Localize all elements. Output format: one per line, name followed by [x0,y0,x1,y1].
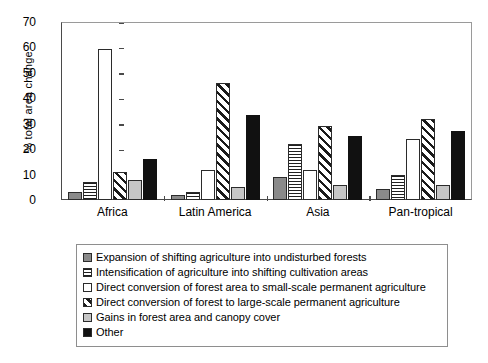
bar-asia-series-3 [303,170,317,201]
bar-africa-series-5 [128,180,142,200]
legend-swatch-icon-4 [83,298,92,307]
bar-group-pan-tropical [369,22,472,200]
x-label-pan-tropical: Pan-tropical [369,205,472,219]
x-label-latin-america: Latin America [164,205,267,219]
legend-swatch-icon-6 [83,328,92,337]
bar-pan-tropical-series-5 [436,185,450,200]
x-label-asia: Asia [267,205,370,219]
bar-africa-series-3 [98,49,112,200]
y-tick-label-70: 70 [0,15,36,29]
bar-asia-series-6 [348,136,362,200]
bar-latin-america-series-2 [186,192,200,200]
bar-asia-series-5 [333,185,347,200]
legend-label-2: Intensification of agriculture into shif… [96,265,368,280]
bar-africa-series-4 [113,172,127,200]
legend-item-4[interactable]: Direct conversion of forest to large-sca… [83,295,441,310]
y-tick-label-0: 0 [0,193,36,207]
legend-item-6[interactable]: Other [83,325,441,340]
y-tick-label-40: 40 [0,91,36,105]
legend-item-5[interactable]: Gains in forest area and canopy cover [83,310,441,325]
bar-latin-america-series-5 [231,187,245,200]
bar-asia-series-2 [288,144,302,200]
legend-label-4: Direct conversion of forest to large-sca… [96,295,400,310]
legend-swatch-icon-2 [83,268,92,277]
y-tick-label-20: 20 [0,142,36,156]
bar-chart: % total area change 70 60 50 40 30 20 10 [0,0,488,232]
legend-item-1[interactable]: Expansion of shifting agriculture into u… [83,250,441,265]
y-tick-label-30: 30 [0,117,36,131]
y-tick-label-50: 50 [0,66,36,80]
bar-pan-tropical-series-1 [376,189,390,200]
bar-group-latin-america [164,22,267,200]
bar-africa-series-2 [83,182,97,200]
bar-africa-series-1 [68,192,82,200]
legend-item-3[interactable]: Direct conversion of forest area to smal… [83,280,441,295]
legend-swatch-icon-1 [83,253,92,262]
bar-africa-series-6 [143,159,157,200]
bar-pan-tropical-series-4 [421,119,435,200]
y-tick-label-10: 10 [0,168,36,182]
chart-legend: Expansion of shifting agriculture into u… [76,244,448,347]
legend-swatch-icon-5 [83,313,92,322]
bar-latin-america-series-1 [171,195,185,200]
legend-label-5: Gains in forest area and canopy cover [96,310,280,325]
bar-pan-tropical-series-3 [406,139,420,200]
bar-group-africa [61,22,164,200]
bar-latin-america-series-4 [216,83,230,200]
x-axis-labels: Africa Latin America Asia Pan-tropical [61,205,472,219]
bar-latin-america-series-6 [246,115,260,200]
bar-pan-tropical-series-2 [391,175,405,200]
legend-swatch-icon-3 [83,283,92,292]
legend-label-1: Expansion of shifting agriculture into u… [96,250,366,265]
legend-label-3: Direct conversion of forest area to smal… [96,280,426,295]
bar-group-asia [267,22,370,200]
bar-asia-series-1 [273,177,287,200]
legend-label-6: Other [96,325,123,340]
bar-pan-tropical-series-6 [451,131,465,200]
x-label-africa: Africa [61,205,164,219]
bar-asia-series-4 [318,126,332,200]
bar-latin-america-series-3 [201,170,215,201]
bar-groups [61,22,472,200]
y-tick-label-60: 60 [0,40,36,54]
legend-item-2[interactable]: Intensification of agriculture into shif… [83,265,441,280]
